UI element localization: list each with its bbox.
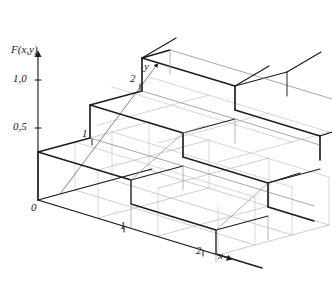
z-axis-label: F(x,y) (11, 44, 38, 55)
stub-top-mid (235, 66, 269, 86)
z-tick-label-05: 0,5 (13, 121, 27, 132)
z-tick-label-1: 1,0 (13, 73, 27, 84)
y-axis-line (38, 169, 152, 200)
stub-top-right (287, 52, 321, 72)
x-axis-label: x (218, 250, 223, 261)
stub-right-b (268, 173, 300, 183)
mid-row-front-edge (90, 105, 183, 133)
step-surface-plot (0, 0, 332, 281)
back-plateau-back-edge (170, 50, 263, 78)
front-row-left-edge (38, 138, 90, 152)
stub-right-c (183, 126, 205, 133)
stub-top-left (142, 38, 176, 58)
origin-label: 0 (31, 202, 37, 213)
x-tick-label-1: 1 (120, 220, 126, 231)
depth-edge-x1-back (235, 72, 287, 86)
mid-row-front-edge-3 (268, 207, 314, 221)
step-surface-row-front (38, 138, 262, 268)
front-row-front-edge (38, 152, 131, 180)
back-row-front-edge (142, 58, 235, 86)
y-tick-label-2: 2 (130, 73, 136, 84)
y-axis-label: y (144, 61, 149, 72)
front-plateau-back-edge-3 (268, 192, 314, 206)
mid-row-left-edge (90, 91, 142, 105)
step-surface-row-mid (90, 91, 314, 221)
x-tick-label-2: 2 (196, 245, 202, 256)
back-row-left-edge (142, 50, 170, 58)
step-surface-row-back (142, 50, 320, 160)
x-axis-ticks (124, 226, 203, 256)
back-plateau-back-edge-3 (263, 78, 332, 99)
figure-canvas: F(x,y) 1,0 0,5 0 1 2 x 1 2 y (0, 0, 332, 281)
y-tick-label-1: 1 (82, 128, 88, 139)
front-plateau-back-edge (90, 138, 183, 166)
mid-plateau-back-edge (142, 91, 235, 119)
